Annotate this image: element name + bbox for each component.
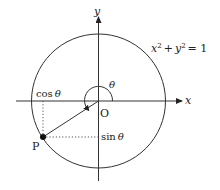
origin-label: O — [100, 107, 109, 120]
equation-label: x2+y2= 1 — [151, 42, 207, 55]
point-p-label: P — [32, 140, 40, 153]
x-axis-label: x — [185, 94, 192, 107]
angle-theta-label: θ — [109, 79, 115, 90]
diagram-svg: y x x2+y2= 1 θ O cosθ sinθ P — [0, 0, 220, 190]
y-axis-label: y — [93, 5, 101, 18]
cos-theta-label: cosθ — [36, 88, 61, 99]
unit-circle-diagram: y x x2+y2= 1 θ O cosθ sinθ P — [0, 0, 220, 190]
point-p-dot — [40, 134, 46, 140]
radius-op — [43, 101, 99, 137]
sin-theta-label: sinθ — [101, 131, 124, 142]
